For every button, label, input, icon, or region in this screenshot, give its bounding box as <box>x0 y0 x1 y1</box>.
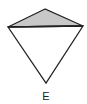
bottom-triangle <box>8 26 83 83</box>
figure-label: E <box>42 90 49 102</box>
kite-diagram: E <box>0 0 87 104</box>
shaded-top-triangle <box>8 9 83 27</box>
